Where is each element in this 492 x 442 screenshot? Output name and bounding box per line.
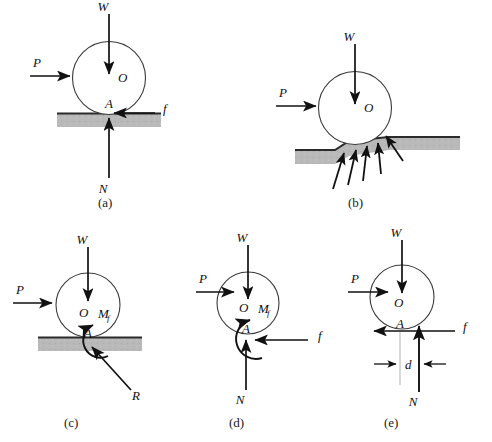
panel-e: W O P A f N d [348, 225, 469, 409]
applied-force-label-b: P [278, 85, 287, 100]
panel-c: W O P A M f R [13, 232, 142, 403]
resultant-arrow-c [92, 347, 131, 390]
caption-e: (e) [384, 415, 398, 431]
panel-b: W O P [276, 29, 460, 189]
panel-d: W O P A M f f N [196, 230, 324, 407]
figure-canvas: W O P A f N W O P [0, 0, 492, 442]
applied-force-label-d: P [198, 271, 207, 286]
center-label-b: O [364, 100, 374, 115]
center-label-e: O [394, 295, 404, 310]
center-label-c: O [79, 305, 89, 320]
applied-force-label-e: P [350, 271, 359, 286]
friction-label-e: f [463, 319, 469, 334]
applied-force-label-a: P [32, 55, 41, 70]
contact-point-label-e: A [395, 316, 404, 331]
offset-label-e: d [405, 357, 412, 372]
normal-label-a: N [98, 181, 109, 196]
resultant-label-c: R [131, 388, 140, 403]
panel-a: W O P A f N [30, 0, 169, 196]
caption-b: (b) [348, 195, 363, 211]
rolling-resistance-figure: W O P A f N W O P [0, 0, 492, 442]
contact-point-label-a: A [104, 96, 113, 111]
normal-label-d: N [235, 392, 246, 407]
friction-label-d: f [318, 328, 324, 343]
center-label-a: O [118, 70, 128, 85]
weight-label-e: W [391, 225, 403, 240]
applied-force-label-c: P [15, 282, 24, 297]
weight-label-d: W [237, 230, 249, 245]
caption-d: (d) [229, 415, 244, 431]
weight-label-a: W [98, 0, 110, 14]
caption-a: (a) [98, 195, 112, 211]
weight-label-c: W [77, 232, 89, 247]
normal-label-e: N [408, 394, 419, 409]
center-label-d: O [239, 300, 249, 315]
weight-label-b: W [344, 29, 356, 44]
caption-c: (c) [64, 415, 78, 431]
friction-label-a: f [163, 101, 169, 116]
